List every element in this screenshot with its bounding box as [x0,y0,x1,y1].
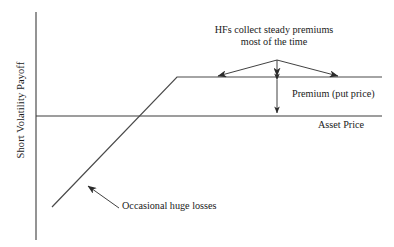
short-volatility-payoff-chart: Short Volatility Payoff HFs collect stea… [0,0,394,247]
callout-line-2: most of the time [241,36,308,47]
steady-premium-callout: HFs collect steady premiums most of the … [198,24,350,47]
losses-leader-arrow [88,186,119,208]
x-axis-label: Asset Price [318,119,364,131]
premium-label: Premium (put price) [292,88,375,100]
occasional-losses-label: Occasional huge losses [122,200,217,212]
y-axis-label: Short Volatility Payoff [15,45,27,175]
callout-line-1: HFs collect steady premiums [215,24,334,35]
callout-arrow-right [277,60,338,76]
callout-arrow-left [218,60,277,76]
